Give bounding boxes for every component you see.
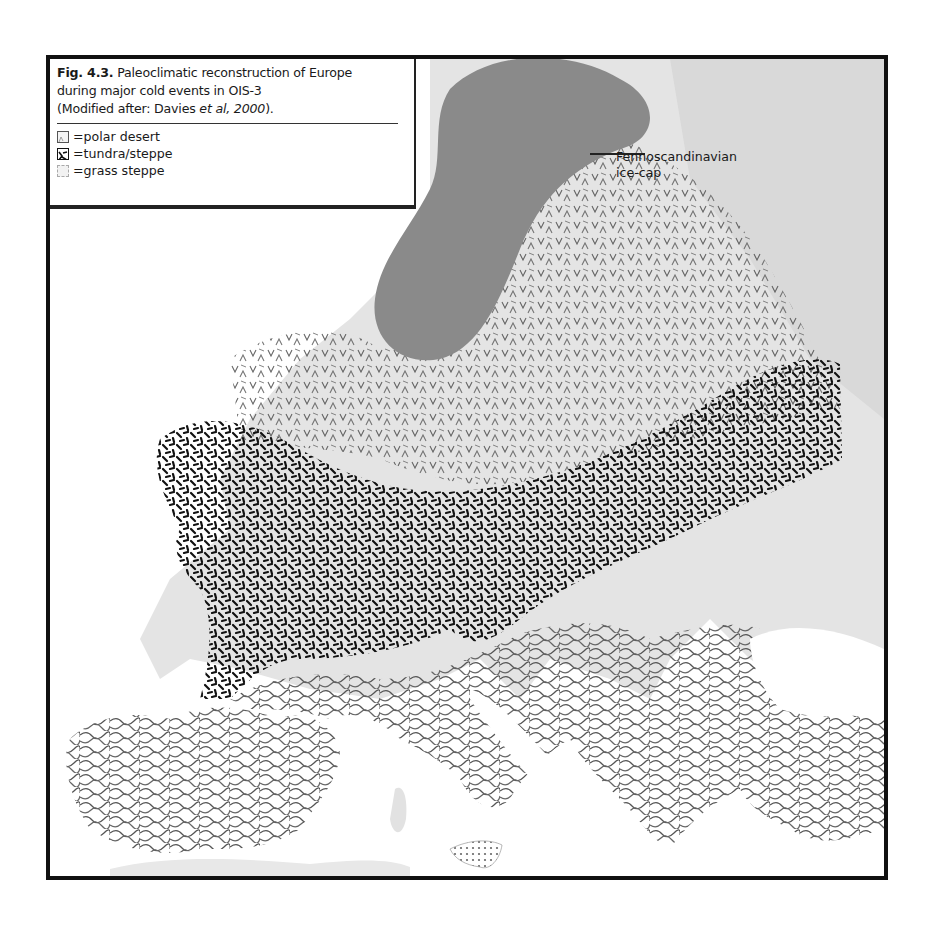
legend-label: =tundra/steppe xyxy=(73,146,173,161)
legend-item-tundra-steppe: =tundra/steppe xyxy=(57,145,406,162)
figure-source-prefix: (Modified after: Davies xyxy=(57,101,199,116)
legend-label: =grass steppe xyxy=(73,163,165,178)
grass-steppe-swatch-icon xyxy=(57,165,69,177)
figure-source-suffix: ). xyxy=(265,101,274,116)
figure-source-italic: et al, 2000 xyxy=(199,101,265,116)
legend-box: Fig. 4.3. Paleoclimatic reconstruction o… xyxy=(46,55,416,209)
icecap-label: Fennoscandinavian ice-cap xyxy=(616,149,737,181)
figure-title-line2: during major cold events in OIS-3 xyxy=(57,83,262,98)
figure-number: Fig. 4.3. xyxy=(57,65,113,80)
icecap-label-line1: Fennoscandinavian xyxy=(616,149,737,164)
legend-item-polar-desert: =polar desert xyxy=(57,128,406,145)
legend-label: =polar desert xyxy=(73,129,160,144)
legend-bottom-rule xyxy=(48,205,414,207)
figure-title: Paleoclimatic reconstruction of Europe xyxy=(117,65,352,80)
map-frame: Fig. 4.3. Paleoclimatic reconstruction o… xyxy=(46,55,888,880)
legend-item-grass-steppe: =grass steppe xyxy=(57,162,406,179)
sicily xyxy=(450,841,502,868)
polar-desert-swatch-icon xyxy=(57,131,69,143)
tundra-steppe-swatch-icon xyxy=(57,148,69,160)
north-africa-coast xyxy=(110,859,410,876)
icecap-label-line2: ice-cap xyxy=(616,165,661,180)
legend-divider xyxy=(57,123,398,124)
figure-caption: Fig. 4.3. Paleoclimatic reconstruction o… xyxy=(57,64,406,118)
sardinia xyxy=(390,788,406,832)
iberia-wavy-zone xyxy=(66,707,340,852)
